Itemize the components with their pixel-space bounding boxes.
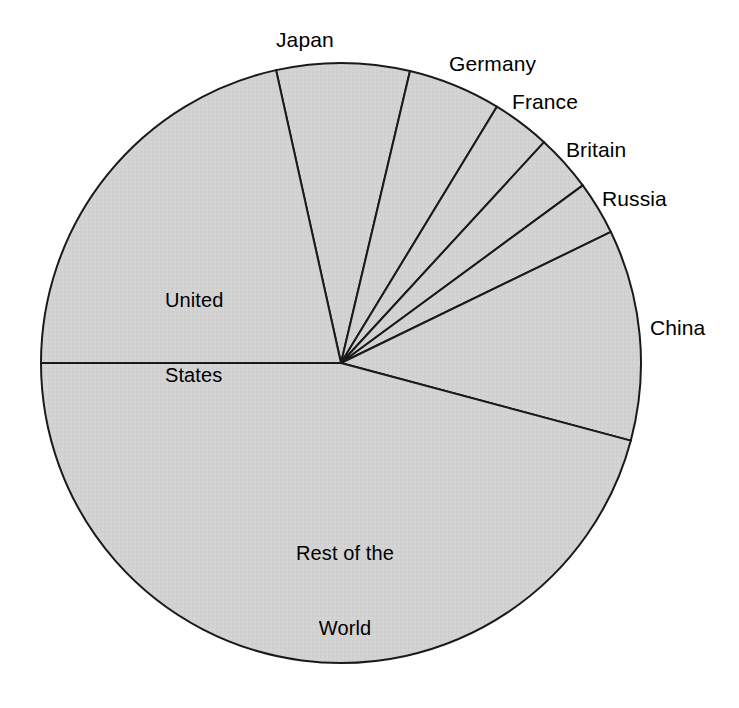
pie-label-united-states-line2: States [165,363,223,388]
pie-chart: Japan Germany France Britain Russia Chin… [0,0,739,708]
pie-label-rest-of-world-line1: Rest of the [245,541,445,566]
pie-label-france: France [512,89,578,114]
pie-label-britain: Britain [566,137,626,162]
pie-label-united-states: United States [165,238,223,438]
pie-label-rest-of-world-line2: World [245,616,445,641]
pie-label-russia: Russia [602,186,667,211]
pie-label-rest-of-world: Rest of the World [245,491,445,691]
pie-label-united-states-line1: United [165,288,223,313]
pie-label-japan: Japan [276,27,334,52]
pie-label-germany: Germany [449,51,536,76]
pie-label-china: China [650,315,705,340]
